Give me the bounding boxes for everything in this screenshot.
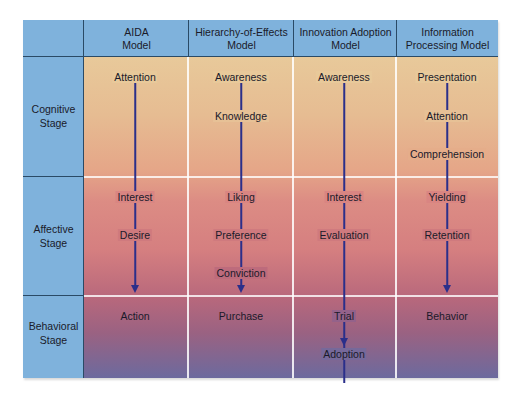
stage-row-divider bbox=[84, 295, 498, 297]
processing-step: Yielding bbox=[427, 191, 468, 203]
stage-affective: AffectiveStage bbox=[23, 222, 84, 250]
header-information-processing-model: InformationProcessing Model bbox=[397, 20, 498, 57]
hierarchy-step: Purchase bbox=[219, 310, 263, 322]
processing-step: Behavior bbox=[426, 310, 467, 322]
stage-label-text: Affective bbox=[33, 223, 73, 235]
processing-step: Presentation bbox=[416, 71, 479, 83]
aida-step: Desire bbox=[118, 229, 152, 241]
stage-label-text: Cognitive bbox=[32, 103, 76, 115]
header-line: Processing Model bbox=[406, 39, 489, 51]
hierarchy-step: Knowledge bbox=[213, 110, 269, 122]
adoption-step: Trial bbox=[332, 310, 356, 322]
header-divider bbox=[293, 20, 294, 57]
stage-label-text: Stage bbox=[40, 237, 67, 249]
header-divider bbox=[188, 20, 189, 57]
header-line: Innovation Adoption bbox=[299, 26, 391, 38]
gradient-body bbox=[84, 57, 498, 378]
aida-flow-line bbox=[134, 83, 136, 285]
aida-step: Attention bbox=[112, 71, 157, 83]
adoption-step: Evaluation bbox=[317, 229, 370, 241]
arrow-down-icon bbox=[237, 285, 245, 293]
header-line: Model bbox=[122, 39, 151, 51]
processing-step: Retention bbox=[423, 229, 472, 241]
stage-label-column: CognitiveStage AffectiveStage Behavioral… bbox=[23, 57, 84, 378]
arrow-down-icon bbox=[131, 285, 139, 293]
column-divider bbox=[395, 57, 397, 378]
stage-label-text: Behavioral bbox=[29, 320, 79, 332]
adoption-step: Awareness bbox=[316, 71, 372, 83]
stage-behavioral: BehavioralStage bbox=[23, 319, 84, 347]
stage-divider bbox=[23, 295, 84, 296]
adoption-step: Interest bbox=[324, 191, 363, 203]
stage-cognitive: CognitiveStage bbox=[23, 102, 84, 130]
header-divider bbox=[83, 20, 84, 57]
header-innovation-adoption-model: Innovation AdoptionModel bbox=[294, 20, 397, 57]
header-line: AIDA bbox=[124, 26, 149, 38]
aida-step: Interest bbox=[115, 191, 154, 203]
stage-row-divider bbox=[84, 176, 498, 178]
column-divider bbox=[292, 57, 294, 378]
arrow-down-icon bbox=[443, 285, 451, 293]
adoption-step: Adoption bbox=[321, 348, 366, 360]
header-line: Model bbox=[227, 39, 256, 51]
aida-step: Action bbox=[120, 310, 149, 322]
header-aida-model: AIDAModel bbox=[84, 20, 189, 57]
hierarchy-step: Preference bbox=[213, 229, 268, 241]
hierarchy-step: Awareness bbox=[213, 71, 269, 83]
stage-label-text: Stage bbox=[40, 334, 67, 346]
header-line: Hierarchy-of-Effects bbox=[195, 26, 288, 38]
header-hierarchy-of-effects-model: Hierarchy-of-EffectsModel bbox=[189, 20, 294, 57]
processing-step: Attention bbox=[424, 110, 469, 122]
header-row: AIDAModel Hierarchy-of-EffectsModel Inno… bbox=[23, 20, 498, 57]
arrow-down-icon bbox=[340, 338, 348, 346]
hierarchy-step: Conviction bbox=[214, 267, 267, 279]
response-hierarchy-models-table: AIDAModel Hierarchy-of-EffectsModel Inno… bbox=[23, 20, 498, 378]
stage-label-text: Stage bbox=[40, 117, 67, 129]
hierarchy-step: Liking bbox=[225, 191, 256, 203]
header-line: Information bbox=[421, 26, 474, 38]
processing-step: Comprehension bbox=[408, 148, 486, 160]
column-divider bbox=[187, 57, 189, 378]
header-line: Model bbox=[331, 39, 360, 51]
header-divider bbox=[396, 20, 397, 57]
stage-divider bbox=[23, 176, 84, 177]
